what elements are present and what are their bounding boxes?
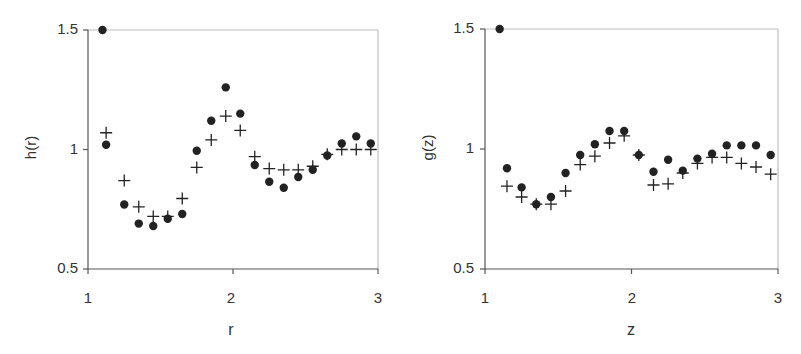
y-tick-1-5: 1.5 bbox=[434, 19, 474, 36]
data-point-circle bbox=[135, 219, 143, 227]
data-point-circle bbox=[280, 184, 288, 192]
data-point-cross bbox=[765, 168, 777, 180]
data-point-cross bbox=[530, 198, 542, 210]
data-point-cross bbox=[321, 148, 333, 160]
data-point-circle bbox=[207, 117, 215, 125]
plot-area-h-r bbox=[0, 0, 400, 354]
x-tick-3: 3 bbox=[363, 289, 393, 306]
y-tick-1: 1 bbox=[434, 139, 474, 156]
x-tick-2: 2 bbox=[216, 289, 246, 306]
x-axis-label-z: z bbox=[611, 321, 651, 339]
data-point-cross bbox=[560, 185, 572, 197]
data-point-cross bbox=[604, 137, 616, 149]
data-point-cross bbox=[545, 198, 557, 210]
y-tick-1-5: 1.5 bbox=[38, 20, 78, 37]
data-point-circle bbox=[766, 151, 774, 159]
data-point-cross bbox=[647, 179, 659, 191]
y-axis-label-g-z: g(z) bbox=[419, 118, 436, 178]
series-circles bbox=[495, 25, 774, 209]
data-point-cross bbox=[350, 144, 362, 156]
data-point-circle bbox=[517, 183, 525, 191]
data-point-circle bbox=[98, 26, 106, 34]
data-point-cross bbox=[249, 151, 261, 163]
data-point-cross bbox=[162, 210, 174, 222]
data-point-circle bbox=[222, 83, 230, 91]
data-point-cross bbox=[735, 157, 747, 169]
data-point-cross bbox=[191, 161, 203, 173]
data-point-circle bbox=[752, 141, 760, 149]
data-point-cross bbox=[750, 161, 762, 173]
data-point-cross bbox=[618, 130, 630, 142]
series-crosses bbox=[100, 110, 377, 222]
plot-area-g-z bbox=[400, 0, 801, 354]
data-point-circle bbox=[178, 210, 186, 218]
data-point-cross bbox=[307, 160, 319, 172]
data-point-circle bbox=[193, 146, 201, 154]
data-point-circle bbox=[605, 127, 613, 135]
data-point-circle bbox=[102, 141, 110, 149]
data-point-cross bbox=[176, 192, 188, 204]
chart-panel-h-r: h(r) 1.5 1 0.5 1 2 3 r bbox=[0, 0, 400, 354]
data-point-cross bbox=[118, 175, 130, 187]
data-point-cross bbox=[220, 110, 232, 122]
data-point-cross bbox=[263, 163, 275, 175]
data-point-circle bbox=[561, 169, 569, 177]
x-tick-1: 1 bbox=[73, 289, 103, 306]
data-point-cross bbox=[336, 144, 348, 156]
data-point-cross bbox=[501, 180, 513, 192]
data-point-cross bbox=[147, 210, 159, 222]
data-point-cross bbox=[706, 151, 718, 163]
data-point-circle bbox=[737, 141, 745, 149]
data-point-circle bbox=[120, 200, 128, 208]
data-point-circle bbox=[576, 151, 584, 159]
data-point-circle bbox=[495, 25, 503, 33]
data-point-cross bbox=[677, 167, 689, 179]
data-point-circle bbox=[265, 178, 273, 186]
data-point-cross bbox=[633, 149, 645, 161]
data-point-circle bbox=[591, 140, 599, 148]
data-point-circle bbox=[649, 168, 657, 176]
data-point-cross bbox=[574, 159, 586, 171]
data-point-circle bbox=[236, 109, 244, 117]
y-tick-1: 1 bbox=[38, 140, 78, 157]
data-point-cross bbox=[662, 178, 674, 190]
data-point-cross bbox=[278, 164, 290, 176]
data-point-circle bbox=[503, 164, 511, 172]
series-circles bbox=[98, 26, 375, 230]
data-point-cross bbox=[292, 164, 304, 176]
y-axis-label-h-r: h(r) bbox=[22, 118, 39, 178]
data-point-cross bbox=[100, 127, 112, 139]
x-tick-3: 3 bbox=[763, 289, 793, 306]
data-point-cross bbox=[365, 144, 377, 156]
data-point-circle bbox=[352, 132, 360, 140]
chart-panel-g-z: g(z) 1.5 1 0.5 1 2 3 z bbox=[400, 0, 800, 354]
x-axis-label-r: r bbox=[211, 321, 251, 339]
data-point-cross bbox=[721, 151, 733, 163]
y-tick-0-5: 0.5 bbox=[434, 259, 474, 276]
data-point-circle bbox=[149, 222, 157, 230]
data-point-cross bbox=[691, 157, 703, 169]
data-point-cross bbox=[516, 191, 528, 203]
data-point-cross bbox=[205, 134, 217, 146]
data-point-circle bbox=[723, 141, 731, 149]
data-point-cross bbox=[133, 201, 145, 213]
data-point-circle bbox=[664, 156, 672, 164]
y-tick-0-5: 0.5 bbox=[38, 259, 78, 276]
x-tick-1: 1 bbox=[470, 289, 500, 306]
x-tick-2: 2 bbox=[617, 289, 647, 306]
data-point-cross bbox=[589, 150, 601, 162]
data-point-cross bbox=[234, 124, 246, 136]
series-crosses bbox=[501, 130, 777, 210]
